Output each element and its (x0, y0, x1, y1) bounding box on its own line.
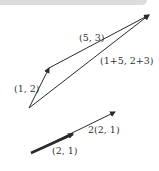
base-vector-label: (2, 1) (52, 145, 78, 156)
sum-vector-label: (1+5, 2+3) (100, 55, 154, 66)
vector-diagram: (1, 2) (5, 3) (1+5, 2+3) 2(2, 1) (2, 1) (0, 0, 159, 171)
vector-a-label: (1, 2) (14, 83, 40, 94)
scaled-vector-label: 2(2, 1) (88, 124, 120, 135)
vector-b-label: (5, 3) (79, 32, 105, 43)
